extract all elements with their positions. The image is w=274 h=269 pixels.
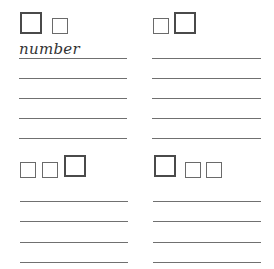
small-square-icon xyxy=(185,162,201,178)
big-square-icon xyxy=(154,155,176,177)
answer-line[interactable] xyxy=(153,242,261,243)
answer-line[interactable] xyxy=(153,221,261,222)
small-square-icon xyxy=(206,162,222,178)
answer-line[interactable] xyxy=(153,262,261,263)
panel-bottom-right xyxy=(0,0,274,269)
answer-line[interactable] xyxy=(153,201,261,202)
